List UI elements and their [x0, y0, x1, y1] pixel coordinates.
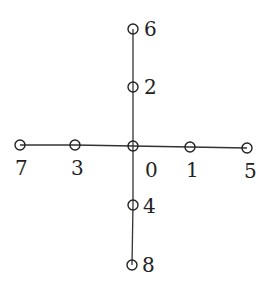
node-label-1: 1	[186, 158, 199, 182]
node-label-6: 6	[144, 17, 157, 41]
edge-0-1	[133, 146, 190, 147]
node-label-7: 7	[15, 156, 28, 180]
edge-1-5	[190, 147, 247, 148]
edge-4-8	[132, 205, 133, 265]
node-label-0: 0	[145, 158, 158, 182]
node-label-3: 3	[71, 156, 84, 180]
edge-3-0	[75, 145, 133, 146]
tree-diagram: 012345678	[0, 0, 274, 295]
edges	[20, 29, 247, 265]
node-label-4: 4	[143, 194, 156, 218]
node-label-8: 8	[142, 253, 155, 277]
node-label-5: 5	[244, 159, 257, 183]
node-label-2: 2	[144, 75, 157, 99]
